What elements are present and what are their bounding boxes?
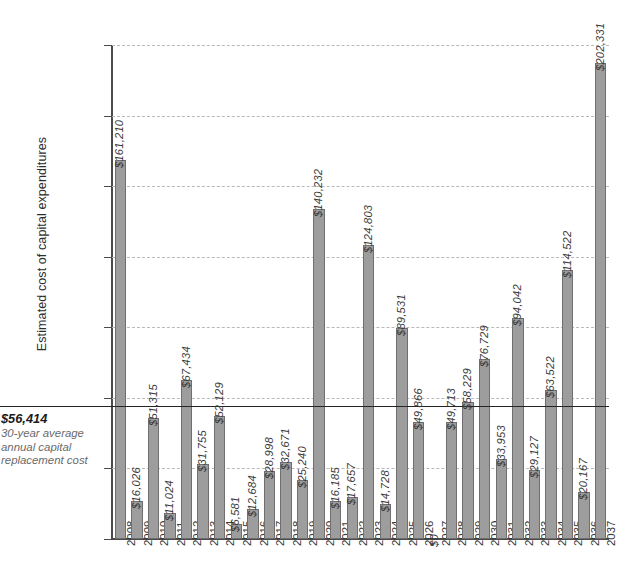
gridline: [112, 257, 609, 258]
bar-value-label: $6,581: [229, 496, 241, 531]
bar-value-label: $124,803: [362, 205, 374, 253]
bar-value-label: $17,657: [345, 464, 357, 506]
bar-value-label: $16,185: [329, 467, 341, 509]
y-axis-tick: [104, 116, 112, 117]
bar-value-label: $28,998: [263, 437, 275, 479]
bar-chart: Estimated cost of capital expenditures $…: [0, 0, 621, 588]
bar[interactable]: [562, 270, 573, 539]
y-axis-tick: [104, 45, 112, 46]
bar-value-label: $0: [428, 534, 440, 547]
bar[interactable]: [446, 422, 457, 539]
y-axis-title: Estimated cost of capital expenditures: [35, 104, 49, 384]
bar[interactable]: [396, 328, 407, 539]
y-axis-tick: [104, 398, 112, 399]
gridline: [112, 45, 609, 46]
bar-value-label: $76,729: [478, 325, 490, 367]
bar-value-label: $89,531: [395, 295, 407, 337]
bar-value-label: $94,042: [511, 284, 523, 326]
plot-area: $0$30,000$60,000$90,000$120,000$150,000$…: [112, 45, 609, 539]
bar-value-label: $32,671: [279, 428, 291, 470]
bar-value-label: $51,315: [147, 384, 159, 426]
bar-value-label: $33,953: [495, 425, 507, 467]
bar[interactable]: [545, 390, 556, 539]
y-axis-tick: [104, 257, 112, 258]
bar-value-label: $49,713: [445, 388, 457, 430]
x-axis-tick-label: 2037: [605, 521, 617, 546]
bar[interactable]: [462, 402, 473, 539]
gridline: [112, 186, 609, 187]
bar-value-label: $140,232: [312, 169, 324, 217]
bar[interactable]: [148, 418, 159, 539]
bar-value-label: $202,331: [594, 23, 606, 71]
bar[interactable]: [363, 245, 374, 539]
bar-value-label: $161,210: [113, 120, 125, 168]
bar-value-label: $29,127: [528, 437, 540, 479]
bar[interactable]: [115, 160, 126, 539]
gridline: [112, 327, 609, 328]
bar[interactable]: [214, 416, 225, 539]
bar-value-label: $63,522: [544, 356, 556, 398]
bar-value-label: $67,434: [180, 347, 192, 389]
bar[interactable]: [529, 470, 540, 539]
average-value-label: $56,414: [1, 411, 109, 427]
bar[interactable]: [297, 480, 308, 539]
bar[interactable]: [264, 471, 275, 539]
bar-value-label: $16,026: [130, 467, 142, 509]
bar-value-label: $31,755: [196, 430, 208, 472]
bar-value-label: $58,229: [461, 368, 473, 410]
bar-value-label: $25,240: [296, 446, 308, 488]
bar[interactable]: [496, 459, 507, 539]
bar-value-label: $20,167: [577, 458, 589, 500]
bar-value-label: $114,522: [561, 230, 573, 277]
bar-value-label: $49,866: [412, 388, 424, 430]
bar[interactable]: [197, 464, 208, 539]
bar[interactable]: [595, 63, 606, 539]
bar[interactable]: [280, 462, 291, 539]
average-description-line: 30-year average: [1, 427, 109, 441]
bar-value-label: $12,684: [246, 475, 258, 517]
y-axis-tick: [104, 327, 112, 328]
bar[interactable]: [413, 422, 424, 539]
gridline: [112, 116, 609, 117]
average-reference-line: [0, 406, 609, 407]
bar[interactable]: [512, 318, 523, 539]
bar[interactable]: [313, 209, 324, 539]
bar-value-label: $11,024: [163, 480, 175, 521]
bar-value-label: $14,728: [379, 471, 391, 513]
bar-value-label: $52,129: [213, 383, 225, 425]
bar[interactable]: [479, 359, 490, 539]
average-description-line: replacement cost: [1, 454, 109, 468]
average-description-line: annual capital: [1, 441, 109, 455]
bar[interactable]: [181, 380, 192, 539]
y-axis-tick: [104, 468, 112, 469]
average-annotation: $56,41430-year averageannual capitalrepl…: [0, 411, 109, 468]
y-axis-tick: [104, 186, 112, 187]
y-axis-tick: [104, 539, 112, 540]
